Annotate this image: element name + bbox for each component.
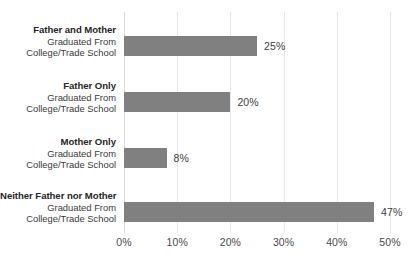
- category-label-title: Father and Mother: [0, 24, 116, 36]
- bar[interactable]: [124, 148, 167, 168]
- category-label: Father OnlyGraduated FromCollege/Trade S…: [0, 80, 116, 115]
- category-label-line3: College/Trade School: [0, 213, 116, 225]
- category-label-title: Neither Father nor Mother: [0, 190, 116, 202]
- bar-row: 25%: [124, 36, 390, 56]
- category-label-title: Mother Only: [0, 136, 116, 148]
- x-tick-label: 40%: [326, 236, 347, 248]
- bar-value-label: 25%: [264, 40, 285, 52]
- bar-value-label: 20%: [237, 96, 258, 108]
- category-label: Mother OnlyGraduated FromCollege/Trade S…: [0, 136, 116, 171]
- x-axis: 0%10%20%30%40%50%: [124, 236, 390, 256]
- category-label-line2: Graduated From: [0, 202, 116, 214]
- x-tick-label: 0%: [116, 236, 131, 248]
- category-label-line3: College/Trade School: [0, 159, 116, 171]
- category-label-line2: Graduated From: [0, 148, 116, 160]
- x-tick-label: 10%: [167, 236, 188, 248]
- bar-row: 20%: [124, 92, 390, 112]
- bar-value-label: 8%: [174, 152, 189, 164]
- category-label-line2: Graduated From: [0, 36, 116, 48]
- bar-row: 47%: [124, 202, 390, 222]
- x-tick-label: 20%: [220, 236, 241, 248]
- category-label-line3: College/Trade School: [0, 103, 116, 115]
- plot-area: 25%20%8%47%: [124, 12, 390, 233]
- bar[interactable]: [124, 36, 257, 56]
- category-label: Neither Father nor MotherGraduated FromC…: [0, 190, 116, 225]
- bar-row: 8%: [124, 148, 390, 168]
- x-tick-label: 30%: [273, 236, 294, 248]
- category-label-line3: College/Trade School: [0, 47, 116, 59]
- gridline-50: [390, 12, 391, 233]
- category-label-title: Father Only: [0, 80, 116, 92]
- bar[interactable]: [124, 202, 374, 222]
- category-label-line2: Graduated From: [0, 92, 116, 104]
- x-tick-label: 50%: [379, 236, 400, 248]
- bar[interactable]: [124, 92, 230, 112]
- bar-value-label: 47%: [381, 206, 402, 218]
- bar-chart: 25%20%8%47% Father and MotherGraduated F…: [0, 0, 410, 261]
- category-label: Father and MotherGraduated FromCollege/T…: [0, 24, 116, 59]
